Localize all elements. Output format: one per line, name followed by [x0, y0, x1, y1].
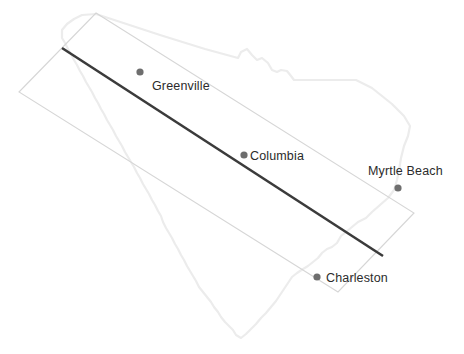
- city-marker-myrtle-beach[interactable]: Myrtle Beach: [368, 164, 443, 192]
- city-dot-myrtle-beach[interactable]: [394, 184, 401, 191]
- city-marker-greenville[interactable]: Greenville: [136, 68, 209, 93]
- city-label-columbia: Columbia: [250, 149, 304, 163]
- bounding-box-rectangle: [19, 13, 414, 292]
- city-marker-charleston[interactable]: Charleston: [313, 271, 388, 285]
- city-label-charleston: Charleston: [326, 271, 388, 285]
- city-dot-greenville[interactable]: [136, 68, 143, 75]
- state-outline-south-carolina: [62, 14, 410, 338]
- city-dot-charleston[interactable]: [313, 273, 320, 280]
- city-dot-columbia[interactable]: [240, 151, 247, 158]
- city-label-myrtle-beach: Myrtle Beach: [368, 164, 443, 178]
- city-marker-columbia[interactable]: Columbia: [240, 149, 304, 163]
- city-label-greenville: Greenville: [152, 79, 210, 93]
- map-canvas: Greenville Columbia Myrtle Beach Charles…: [0, 0, 464, 354]
- city-markers-group: Greenville Columbia Myrtle Beach Charles…: [136, 68, 442, 285]
- map-figure: Greenville Columbia Myrtle Beach Charles…: [0, 0, 464, 354]
